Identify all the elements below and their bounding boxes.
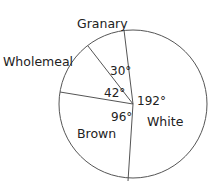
angle-granary: 30° [110, 64, 131, 78]
angle-wholemeal: 42° [104, 86, 125, 100]
label-granary: Granary [77, 16, 128, 31]
label-wholemeal: Wholemeal [3, 54, 73, 69]
angle-brown: 96° [111, 110, 132, 124]
pie-chart: Granary Wholemeal Brown White 30° 42° 96… [0, 0, 219, 191]
label-white: White [147, 114, 184, 129]
angle-white: 192° [137, 94, 166, 108]
label-brown: Brown [77, 126, 116, 141]
